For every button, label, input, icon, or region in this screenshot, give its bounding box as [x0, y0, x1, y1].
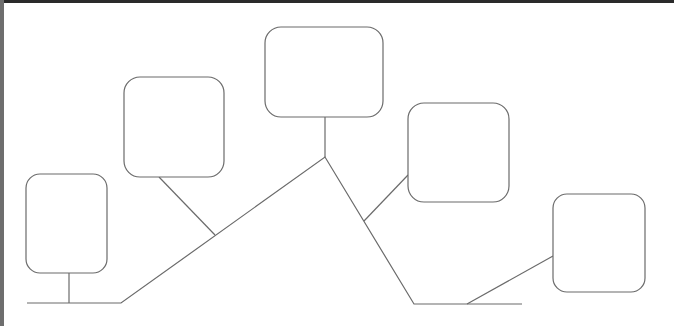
- diagram-node-1[interactable]: [26, 174, 107, 273]
- node-box[interactable]: [553, 194, 645, 292]
- node-box[interactable]: [26, 174, 107, 273]
- node-box[interactable]: [124, 77, 224, 177]
- node-box[interactable]: [408, 103, 509, 202]
- diagram-node-4[interactable]: [408, 103, 509, 202]
- node-box[interactable]: [265, 27, 383, 117]
- diagram-canvas: [0, 0, 674, 326]
- diagram-node-2[interactable]: [124, 77, 224, 177]
- conn-2: [159, 177, 215, 235]
- diagram-node-5[interactable]: [553, 194, 645, 292]
- conn-5: [467, 256, 553, 304]
- node-group: [26, 27, 645, 292]
- conn-4: [364, 175, 408, 221]
- diagram-node-3[interactable]: [265, 27, 383, 117]
